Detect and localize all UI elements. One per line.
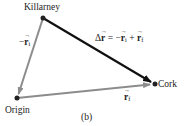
cork-label: Cork: [158, 80, 177, 90]
caption-label: (b): [81, 113, 92, 123]
rf-label: rf: [124, 93, 130, 103]
equals-minus: = −: [105, 33, 120, 43]
origin-label: Origin: [5, 106, 30, 116]
delta-r-arrow: [43, 18, 151, 82]
cork-point: [153, 82, 158, 87]
rf-vector-symbol: r: [124, 93, 128, 103]
displacement-diagram: Killarney Origin Cork (b) −ri rf Δr = −r…: [0, 0, 186, 126]
killarney-point: [41, 16, 46, 21]
eq-ri-symbol: r: [121, 34, 125, 44]
delta-r-equation: Δr = −ri + rf: [95, 34, 143, 44]
plus-sign: +: [127, 33, 137, 43]
delta-r-vector-symbol: r: [101, 34, 105, 44]
ri-vector-symbol: r: [24, 38, 28, 48]
eq-rf-symbol: r: [137, 34, 141, 44]
eq-rf-subscript: f: [141, 36, 143, 43]
killarney-label: Killarney: [24, 3, 60, 13]
rf-subscript: f: [128, 95, 130, 102]
neg-ri-label: −ri: [19, 38, 30, 48]
neg-ri-arrow: [19, 18, 44, 94]
origin-point: [15, 96, 20, 101]
